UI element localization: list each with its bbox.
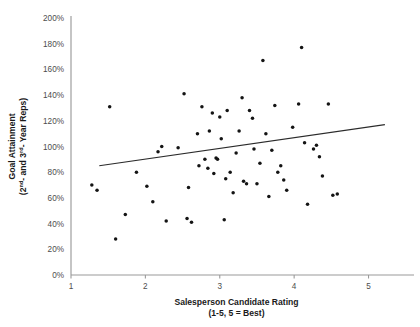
data-point: [245, 182, 249, 186]
data-point: [273, 104, 277, 108]
y-tick-label: 80%: [48, 168, 64, 177]
trend-line: [99, 125, 385, 166]
data-point: [234, 151, 238, 155]
data-point: [156, 150, 160, 154]
data-point: [95, 188, 99, 192]
data-point: [318, 155, 322, 159]
data-point: [255, 182, 259, 186]
data-point: [248, 109, 252, 113]
data-point: [224, 177, 228, 181]
y-axis-title-line2: (2nd- and 3rd- Year Reps): [18, 98, 28, 195]
y-tick-label: 140%: [43, 91, 64, 100]
data-point: [90, 183, 94, 187]
data-point: [216, 158, 220, 162]
y-tick-label: 100%: [43, 143, 64, 152]
x-axis-subtitle: (1-5, 5 = Best): [208, 308, 264, 318]
data-point: [203, 158, 207, 162]
data-point: [206, 167, 210, 171]
data-points: [90, 46, 339, 241]
x-tick-label: 1: [69, 282, 74, 291]
x-tick-label: 2: [143, 282, 148, 291]
data-point: [225, 109, 229, 113]
data-point: [160, 145, 164, 149]
data-point: [282, 178, 286, 182]
x-axis-title: Salesperson Candidate Rating: [174, 297, 298, 307]
scatter-chart: 0%20%40%60%80%100%120%140%160%180%200% 1…: [0, 0, 420, 327]
data-point: [190, 221, 194, 225]
data-point: [285, 188, 289, 192]
data-point: [303, 141, 307, 145]
data-point: [211, 111, 215, 115]
data-point: [151, 200, 155, 204]
data-point: [135, 170, 139, 174]
y-tick-label: 180%: [43, 40, 64, 49]
data-point: [228, 170, 232, 174]
data-point: [237, 129, 241, 133]
data-point: [218, 115, 222, 119]
data-point: [327, 102, 331, 106]
data-point: [185, 217, 189, 221]
y-tick-label: 0%: [52, 271, 64, 280]
y-axis-tick-labels: 0%20%40%60%80%100%120%140%160%180%200%: [43, 14, 64, 280]
data-point: [220, 137, 224, 141]
data-point: [145, 185, 149, 189]
data-point: [197, 164, 201, 168]
data-point: [336, 192, 340, 196]
data-point: [182, 92, 186, 96]
data-point: [291, 125, 295, 129]
y-tick-label: 40%: [48, 220, 64, 229]
y-tick-label: 20%: [48, 245, 64, 254]
data-point: [279, 164, 283, 168]
data-point: [300, 46, 304, 50]
data-point: [242, 179, 246, 183]
chart-svg: 0%20%40%60%80%100%120%140%160%180%200% 1…: [0, 0, 420, 327]
data-point: [164, 219, 168, 223]
data-point: [315, 143, 319, 147]
data-point: [297, 102, 301, 106]
y-tick-label: 120%: [43, 117, 64, 126]
x-tick-label: 5: [366, 282, 371, 291]
y-title-suffix: - Year Reps): [18, 98, 28, 148]
data-point: [270, 149, 274, 153]
data-point: [261, 59, 265, 63]
y-tick-label: 200%: [43, 14, 64, 23]
y-axis-title: Goal Attainment (2nd- and 3rd- Year Reps…: [7, 98, 28, 195]
data-point: [252, 147, 256, 151]
data-point: [231, 191, 235, 195]
data-point: [196, 132, 200, 136]
data-point: [321, 174, 325, 178]
data-point: [187, 186, 191, 190]
data-point: [331, 194, 335, 198]
data-point: [258, 161, 262, 165]
data-point: [212, 172, 216, 176]
x-tick-label: 4: [292, 282, 297, 291]
data-point: [276, 170, 280, 174]
data-point: [264, 132, 268, 136]
data-point: [267, 195, 271, 199]
y-tick-label: 60%: [48, 194, 64, 203]
data-point: [108, 105, 112, 109]
y-tick-label: 160%: [43, 65, 64, 74]
data-point: [208, 129, 212, 133]
data-point: [306, 203, 310, 207]
x-tick-label: 3: [217, 282, 222, 291]
data-point: [251, 116, 255, 120]
x-axis-tick-labels: 12345: [69, 282, 372, 291]
data-point: [240, 96, 244, 100]
data-point: [222, 218, 226, 222]
y-title-middle: - and 3: [18, 153, 28, 181]
data-point: [124, 213, 128, 217]
data-point: [312, 147, 316, 151]
data-point: [200, 105, 204, 109]
data-point: [114, 237, 118, 241]
y-axis-title-line1: Goal Attainment: [7, 113, 17, 179]
data-point: [176, 146, 180, 150]
